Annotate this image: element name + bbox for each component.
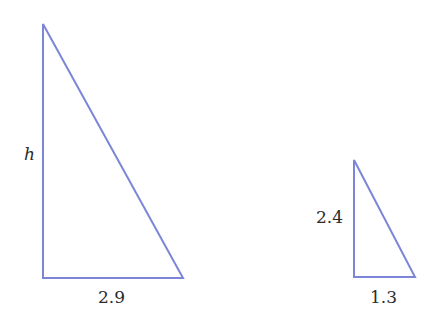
large-triangle-height-label: h	[24, 146, 35, 163]
similar-triangles-figure	[0, 0, 436, 321]
small-triangle-height-label: 2.4	[316, 209, 343, 226]
large-triangle-base-label: 2.9	[98, 289, 125, 306]
large-right-triangle	[43, 24, 183, 278]
small-triangle-base-label: 1.3	[370, 289, 397, 306]
small-right-triangle	[354, 160, 415, 277]
